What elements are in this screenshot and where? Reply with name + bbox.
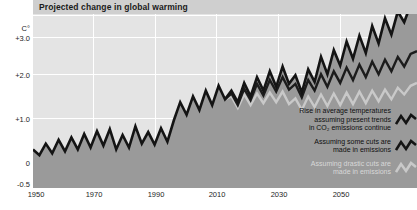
x-tick-2050: 2050 [333, 190, 350, 199]
zigzag-line-icon [395, 139, 417, 153]
legend-label-drastic-cuts: Assuming drastic cuts are made in emissi… [311, 160, 391, 177]
legend-item-present-trends: Rise in average temperatures assuming pr… [247, 106, 417, 134]
x-tick-1990: 1990 [148, 190, 165, 199]
zigzag-line-icon [395, 161, 417, 175]
legend-label-some-cuts: Assuming some cuts are made in emissions [314, 138, 391, 155]
y-tick-3.0: +3.0 [0, 34, 30, 43]
x-tick-1950: 1950 [28, 190, 45, 199]
y-axis-unit-label: C° [0, 24, 30, 33]
chart-figure: Projected change in global warming C° +3… [0, 0, 417, 210]
x-tick-2010: 2010 [209, 190, 226, 199]
legend-label-present-trends: Rise in average temperatures assuming pr… [299, 107, 391, 132]
x-tick-2030: 2030 [271, 190, 288, 199]
y-tick--0.5: -0.5 [0, 180, 30, 189]
chart-legend: Rise in average temperatures assuming pr… [247, 106, 417, 182]
y-tick-1.0: +1.0 [0, 115, 30, 124]
page-title: Projected change in global warming [39, 2, 188, 12]
y-tick-0: 0 [0, 159, 30, 168]
y-tick-2.0: +2.0 [0, 71, 30, 80]
zigzag-line-icon [395, 113, 417, 127]
legend-item-drastic-cuts: Assuming drastic cuts are made in emissi… [247, 158, 417, 178]
legend-item-some-cuts: Assuming some cuts are made in emissions [247, 136, 417, 156]
x-tick-1970: 1970 [86, 190, 103, 199]
chart-title-bar: Projected change in global warming [33, 0, 417, 14]
